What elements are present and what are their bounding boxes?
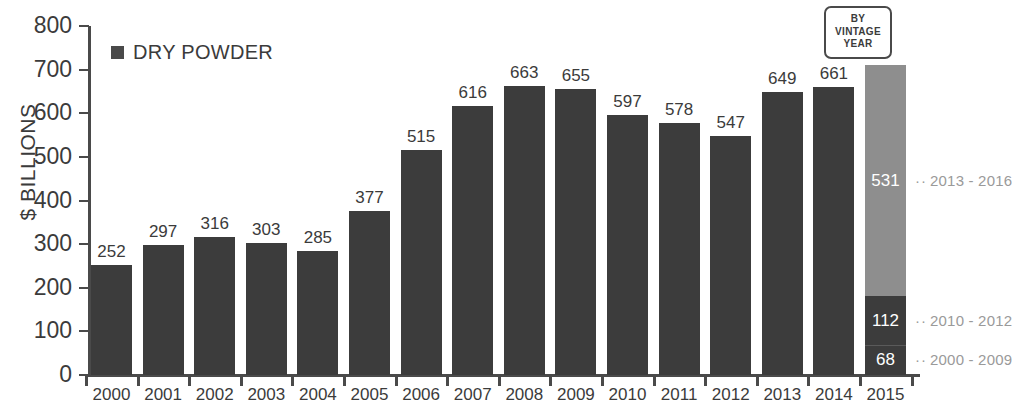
bar-2002 <box>194 237 235 375</box>
x-tick-label-2009: 2009 <box>549 386 602 403</box>
x-tick-label-2014: 2014 <box>807 386 860 403</box>
x-tick <box>291 375 294 386</box>
bar-value-label: 303 <box>240 221 293 238</box>
x-tick <box>911 375 914 386</box>
y-tick-label: 500 <box>10 145 72 168</box>
bar-2014 <box>813 87 854 375</box>
x-tick-label-2007: 2007 <box>446 386 499 403</box>
x-tick-label-2001: 2001 <box>137 386 190 403</box>
x-tick <box>549 375 552 386</box>
bar-2008 <box>504 86 545 375</box>
segment-annotation-text: 2013 - 2016 <box>930 172 1012 189</box>
y-tick-label: 400 <box>10 189 72 212</box>
badge-line-2: VINTAGE <box>828 26 888 39</box>
bar-2011 <box>659 123 700 375</box>
y-tick-label: 800 <box>10 14 72 37</box>
y-tick <box>79 25 89 27</box>
bar-value-label: 316 <box>188 215 241 232</box>
x-tick <box>395 375 398 386</box>
bar-value-label: 285 <box>291 229 344 246</box>
x-tick-label-2005: 2005 <box>343 386 396 403</box>
bar-2013 <box>762 92 803 375</box>
x-tick-label-2004: 2004 <box>291 386 344 403</box>
x-tick <box>704 375 707 386</box>
bar-2004 <box>297 251 338 375</box>
bar-value-label: 377 <box>343 189 396 206</box>
segment-annotation: ··2000 - 2009 <box>915 352 1012 367</box>
segment-annotation: ··2010 - 2012 <box>915 313 1012 328</box>
x-tick-label-2011: 2011 <box>653 386 706 403</box>
segment-value-label: 531 <box>865 172 906 189</box>
leader-dots-icon: ·· <box>915 173 927 188</box>
bar-value-label: 597 <box>601 93 654 110</box>
legend: DRY POWDER <box>111 42 273 62</box>
bar-2005 <box>349 211 390 375</box>
bar-value-label: 297 <box>137 223 190 240</box>
x-tick <box>137 375 140 386</box>
bar-value-label: 515 <box>395 128 448 145</box>
x-tick <box>343 375 346 386</box>
x-tick-label-2003: 2003 <box>240 386 293 403</box>
x-tick-label-2006: 2006 <box>395 386 448 403</box>
y-tick <box>79 112 89 114</box>
leader-dots-icon: ·· <box>915 352 927 367</box>
x-tick-label-2002: 2002 <box>188 386 241 403</box>
bar-2006 <box>401 150 442 375</box>
badge-line-1: BY <box>828 13 888 26</box>
x-tick <box>240 375 243 386</box>
segment-annotation: ··2013 - 2016 <box>915 173 1012 188</box>
x-tick <box>756 375 759 386</box>
x-tick <box>859 375 862 386</box>
legend-swatch-dry-powder <box>111 46 124 59</box>
x-tick-label-2015: 2015 <box>859 386 912 403</box>
bar-value-label: 547 <box>704 114 757 131</box>
y-tick-label: 200 <box>10 276 72 299</box>
bar-value-label: 616 <box>446 84 499 101</box>
y-tick-label: 700 <box>10 58 72 81</box>
x-tick <box>85 375 88 386</box>
badge-line-3: YEAR <box>828 38 888 51</box>
x-tick <box>601 375 604 386</box>
bar-2000 <box>91 265 132 375</box>
y-tick <box>79 330 89 332</box>
bar-value-label: 252 <box>85 243 138 260</box>
x-tick-label-2010: 2010 <box>601 386 654 403</box>
segment-value-label: 112 <box>865 312 906 329</box>
y-tick <box>79 69 89 71</box>
x-tick-label-2008: 2008 <box>498 386 551 403</box>
legend-label-dry-powder: DRY POWDER <box>133 42 273 62</box>
x-tick <box>498 375 501 386</box>
by-vintage-year-badge: BY VINTAGE YEAR <box>824 6 892 59</box>
segment-annotation-text: 2000 - 2009 <box>930 351 1012 368</box>
y-tick-label: 600 <box>10 101 72 124</box>
bar-value-label: 578 <box>653 101 706 118</box>
y-tick-label: 300 <box>10 232 72 255</box>
x-tick-label-2000: 2000 <box>85 386 138 403</box>
x-tick <box>807 375 810 386</box>
x-tick <box>188 375 191 386</box>
bar-value-label: 655 <box>549 67 602 84</box>
segment-value-label: 68 <box>865 351 906 368</box>
y-tick <box>79 200 89 202</box>
y-tick-label: 0 <box>10 363 72 386</box>
y-tick-label: 100 <box>10 319 72 342</box>
x-tick <box>446 375 449 386</box>
leader-dots-icon: ·· <box>915 313 927 328</box>
x-tick-label-2012: 2012 <box>704 386 757 403</box>
x-tick-label-2013: 2013 <box>756 386 809 403</box>
bar-2001 <box>143 245 184 375</box>
x-tick <box>653 375 656 386</box>
bar-2012 <box>710 136 751 375</box>
bar-value-label: 661 <box>807 65 860 82</box>
bar-2009 <box>555 89 596 375</box>
bar-2010 <box>607 115 648 375</box>
bar-2003 <box>246 243 287 375</box>
y-tick <box>79 287 89 289</box>
y-tick <box>79 156 89 158</box>
bar-value-label: 663 <box>498 64 551 81</box>
bar-value-label: 649 <box>756 70 809 87</box>
bar-2007 <box>452 106 493 375</box>
segment-annotation-text: 2010 - 2012 <box>930 312 1012 329</box>
segment-divider <box>865 345 906 346</box>
